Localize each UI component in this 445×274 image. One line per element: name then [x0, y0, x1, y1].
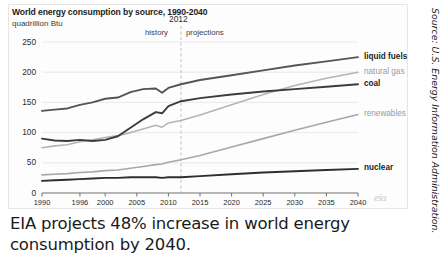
y-axis-tick-label: 50: [14, 157, 36, 167]
series-label-nuclear: nuclear: [364, 163, 393, 172]
x-axis-tick-label: 2010: [153, 198, 183, 207]
series-label-liquid-fuels: liquid fuels: [364, 52, 407, 61]
figure-container: World energy consumption by source, 1990…: [0, 0, 445, 274]
history-label: history: [145, 28, 168, 37]
y-axis-tick-label: 150: [14, 97, 36, 107]
x-axis-tick-label: 2035: [311, 198, 341, 207]
figure-caption: EIA projects 48% increase in world energ…: [10, 214, 405, 256]
x-axis-tick-label: 2020: [217, 198, 247, 207]
source-note-text: Source: U.S. Energy Information Administ…: [430, 8, 441, 233]
eia-logo: eia: [374, 191, 386, 203]
y-axis-tick-label: 200: [14, 67, 36, 77]
projection-year-label: 2012: [169, 14, 188, 24]
chart-axis-units-label: quadrillion Btu: [12, 19, 63, 28]
source-note: Source: U.S. Energy Information Administ…: [428, 0, 444, 274]
series-label-renewables: renewables: [364, 109, 406, 118]
x-axis-tick-label: 2005: [122, 198, 152, 207]
x-axis-tick-label: 2030: [280, 198, 310, 207]
projections-label: projections: [186, 28, 224, 37]
x-axis-tick-label: 2025: [248, 198, 278, 207]
x-axis-tick-label: 1990: [27, 198, 57, 207]
series-label-natural-gas: natural gas: [364, 67, 405, 76]
series-label-coal: coal: [364, 79, 380, 88]
x-axis-tick-label: 2000: [90, 198, 120, 207]
y-axis-tick-label: 250: [14, 37, 36, 47]
x-axis-tick-label: 2015: [185, 198, 215, 207]
x-axis-tick-label: 2040: [343, 198, 373, 207]
y-axis-tick-label: 0: [14, 188, 36, 198]
y-axis-tick-label: 100: [14, 127, 36, 137]
